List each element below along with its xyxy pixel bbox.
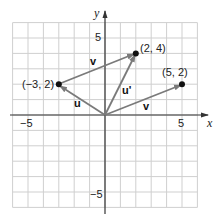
point-label-2-4: (2, 4) — [140, 42, 166, 54]
y-axis-label: y — [93, 6, 100, 20]
y-tick-pos5: 5 — [95, 31, 101, 43]
vector-diagram: x y −5 5 5 −5 (−3, 2) (2, 4) (5, 2) u v … — [0, 0, 217, 216]
vector-u — [60, 86, 105, 115]
point-2-4 — [133, 50, 139, 56]
point-neg3-2 — [56, 81, 62, 87]
x-axis-label: x — [206, 116, 213, 130]
point-label-5-2: (5, 2) — [162, 66, 188, 78]
vector-label-u-prime: u' — [122, 84, 132, 96]
point-label-neg3-2: (−3, 2) — [22, 78, 54, 90]
vector-label-u: u — [74, 97, 81, 109]
point-5-2 — [179, 81, 185, 87]
vector-label-v-top: v — [90, 55, 97, 67]
x-tick-neg5: −5 — [20, 117, 33, 129]
x-tick-pos5: 5 — [178, 117, 184, 129]
y-tick-neg5: −5 — [90, 188, 103, 200]
vector-label-v-bottom: v — [143, 100, 150, 112]
